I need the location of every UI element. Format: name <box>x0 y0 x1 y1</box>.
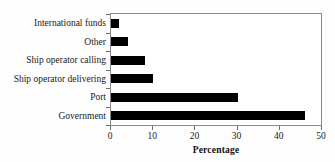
category-axis-labels: International funds Other Ship operator … <box>0 14 106 125</box>
x-axis-tick-label: 0 <box>98 131 122 141</box>
bar-government <box>111 111 305 120</box>
bar-row <box>111 33 322 52</box>
bar-other <box>111 37 128 46</box>
y-axis-tick <box>106 88 110 89</box>
x-axis-tick-label: 50 <box>309 131 333 141</box>
bar-international-funds <box>111 19 119 28</box>
x-axis-title: Percentage <box>110 145 322 155</box>
y-axis-tick <box>106 14 110 15</box>
category-label: Port <box>0 88 106 107</box>
category-label: International funds <box>0 14 106 33</box>
bar-row <box>111 14 322 33</box>
bar-row <box>111 70 322 89</box>
bar-row <box>111 107 322 126</box>
x-axis-tick-label: 30 <box>225 131 249 141</box>
x-axis-tick-label: 10 <box>140 131 164 141</box>
x-axis-tick <box>110 126 111 130</box>
bar-chart: International funds Other Ship operator … <box>0 0 335 162</box>
x-axis-tick <box>152 126 153 130</box>
y-axis-tick <box>106 51 110 52</box>
category-label: Other <box>0 33 106 52</box>
y-axis-tick <box>106 33 110 34</box>
bar-ship-operator-delivering <box>111 74 153 83</box>
y-axis-tick <box>106 107 110 108</box>
bar-port <box>111 93 238 102</box>
category-label: Government <box>0 107 106 126</box>
x-axis-tick-label: 40 <box>267 131 291 141</box>
x-axis-tick-label: 20 <box>182 131 206 141</box>
bar-ship-operator-calling <box>111 56 145 65</box>
x-axis-tick <box>194 126 195 130</box>
x-axis-tick <box>321 126 322 130</box>
y-axis-tick <box>106 70 110 71</box>
category-label: Ship operator delivering <box>0 70 106 89</box>
bars-layer <box>111 14 322 125</box>
x-axis-tick <box>237 126 238 130</box>
bar-row <box>111 51 322 70</box>
x-axis-tick <box>279 126 280 130</box>
category-label: Ship operator calling <box>0 51 106 70</box>
bar-row <box>111 88 322 107</box>
